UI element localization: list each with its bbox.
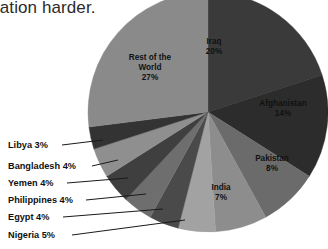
callout-label: Yemen 4% xyxy=(8,178,53,188)
callout-label: Nigeria 5% xyxy=(8,230,55,240)
pie-chart-screenshot: ration harder. Iraq20%Afghanistan14%Paki… xyxy=(0,0,328,249)
callout-label: Egypt 4% xyxy=(8,212,49,222)
slice-label-line: India xyxy=(211,183,231,192)
slice-label-line: Iraq xyxy=(206,37,221,46)
pie-chart: Iraq20%Afghanistan14%Pakistan8%India7%Re… xyxy=(0,0,328,249)
slice-label-line: 7% xyxy=(215,193,228,202)
callout-label: Libya 3% xyxy=(8,140,48,150)
pie-slices-group xyxy=(88,0,328,232)
slice-label-line: 27% xyxy=(142,73,159,82)
slice-label-line: 14% xyxy=(275,109,292,118)
slice-label-line: Pakistan xyxy=(255,154,289,163)
callout-label: Bangladesh 4% xyxy=(8,161,76,171)
slice-label-line: World xyxy=(138,63,161,72)
leader-line xyxy=(72,220,185,235)
slice-label-line: 8% xyxy=(266,164,279,173)
slice-label-line: 20% xyxy=(206,47,223,56)
callout-label: Philippines 4% xyxy=(8,195,73,205)
slice-label-line: Rest of the xyxy=(129,53,172,62)
callout-labels-group: Nigeria 5%Egypt 4%Philippines 4%Yemen 4%… xyxy=(8,140,76,240)
slice-label-line: Afghanistan xyxy=(259,99,306,108)
slice-label: Iraq20% xyxy=(206,37,223,56)
